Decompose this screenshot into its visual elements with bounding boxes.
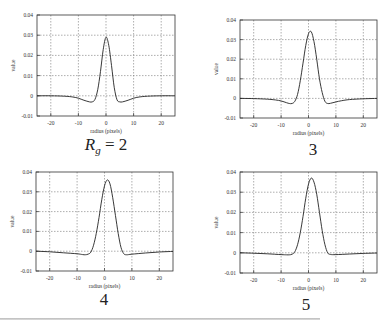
x-tick-label: 0 (307, 277, 310, 283)
y-tick-label: 0.02 (226, 209, 236, 215)
caption-5: 5 (246, 295, 366, 315)
plot-5: -20-1001020-0.0100.010.020.030.04radius … (0, 0, 389, 324)
y-tick-label: 0 (233, 250, 236, 256)
y-tick-label: 0.03 (226, 189, 236, 195)
y-axis-label: value (213, 216, 219, 228)
bottom-rule (0, 318, 320, 320)
chart-svg-5: -20-1001020-0.0100.010.020.030.04radius … (0, 0, 389, 300)
y-tick-label: 0.01 (226, 230, 236, 236)
x-tick-label: -10 (277, 277, 285, 283)
y-tick-label: 0.04 (226, 169, 236, 175)
y-tick-label: -0.01 (225, 270, 237, 276)
data-line (240, 178, 377, 255)
x-tick-label: -20 (250, 277, 258, 283)
x-tick-label: 10 (333, 277, 339, 283)
x-tick-label: 20 (361, 277, 367, 283)
x-axis-label: radius (pixels) (293, 285, 325, 292)
